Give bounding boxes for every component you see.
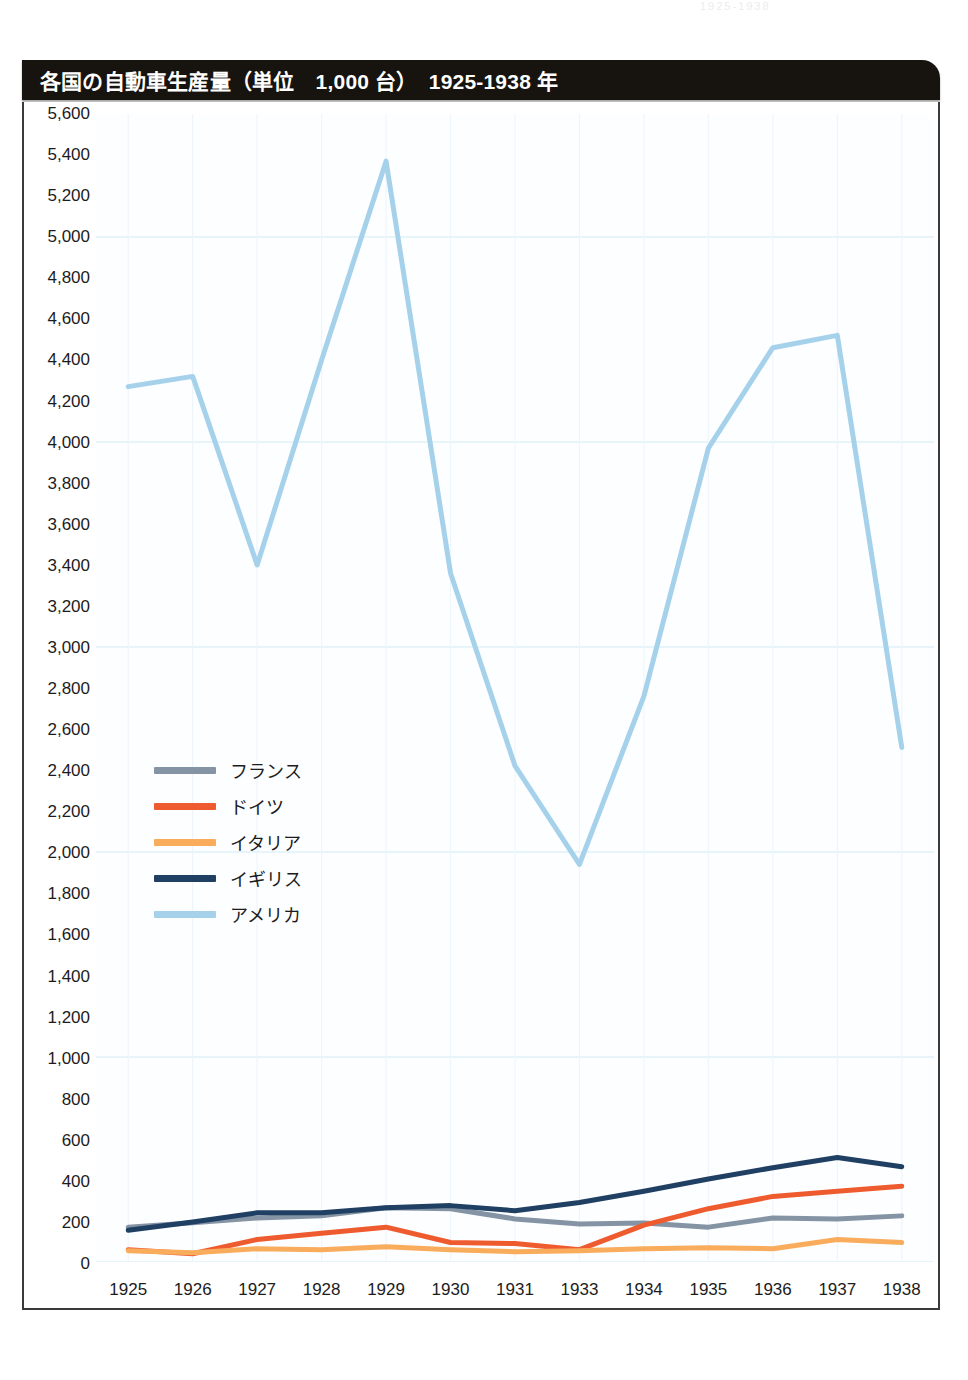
figure: 各国の自動車生産量（単位 1,000 台） 1925-1938 年 5,6005… xyxy=(22,60,940,1310)
x-axis-tick-label: 1936 xyxy=(754,1280,792,1300)
y-axis-ticks: 5,6005,4005,2005,0004,8004,6004,4004,200… xyxy=(24,102,96,1308)
y-axis-tick-label: 1,400 xyxy=(30,967,96,987)
legend-item[interactable]: ドイツ xyxy=(154,788,384,824)
top-ghost-text: 1925-1938 xyxy=(700,0,950,10)
y-axis-tick-label: 2,600 xyxy=(30,720,96,740)
legend-swatch-icon xyxy=(154,767,216,774)
x-axis-tick-label: 1929 xyxy=(367,1280,405,1300)
y-axis-tick-label: 2,400 xyxy=(30,761,96,781)
legend-item-label: フランス xyxy=(230,757,302,783)
legend-item-label: イギリス xyxy=(230,865,302,891)
x-axis-tick-label: 1937 xyxy=(818,1280,856,1300)
y-axis-tick-label: 4,800 xyxy=(30,268,96,288)
legend-item[interactable]: アメリカ xyxy=(154,896,384,932)
axes: 5,6005,4005,2005,0004,8004,6004,4004,200… xyxy=(24,102,938,1308)
series-lines xyxy=(96,114,934,1262)
plot-canvas xyxy=(96,114,934,1262)
x-axis-tick-label: 1930 xyxy=(432,1280,470,1300)
y-axis-tick-label: 4,600 xyxy=(30,309,96,329)
x-axis-tick-label: 1928 xyxy=(303,1280,341,1300)
y-axis-tick-label: 1,800 xyxy=(30,884,96,904)
x-axis-tick-label: 1927 xyxy=(238,1280,276,1300)
y-axis-tick-label: 1,600 xyxy=(30,925,96,945)
plot-frame: 5,6005,4005,2005,0004,8004,6004,4004,200… xyxy=(22,102,940,1310)
y-axis-tick-label: 3,000 xyxy=(30,638,96,658)
x-axis-tick-label: 1935 xyxy=(689,1280,727,1300)
x-axis-tick-label: 1938 xyxy=(883,1280,921,1300)
y-axis-tick-label: 0 xyxy=(30,1254,96,1274)
y-axis-tick-label: 2,800 xyxy=(30,679,96,699)
y-axis-tick-label: 5,400 xyxy=(30,145,96,165)
y-axis-tick-label: 3,600 xyxy=(30,515,96,535)
y-axis-tick-label: 200 xyxy=(30,1213,96,1233)
y-axis-tick-label: 4,200 xyxy=(30,392,96,412)
y-axis-tick-label: 3,800 xyxy=(30,474,96,494)
x-axis-tick-label: 1925 xyxy=(109,1280,147,1300)
legend-swatch-icon xyxy=(154,803,216,810)
chart-title: 各国の自動車生産量（単位 1,000 台） 1925-1938 年 xyxy=(40,65,558,95)
legend-swatch-icon xyxy=(154,911,216,918)
legend-item[interactable]: フランス xyxy=(154,752,384,788)
y-axis-tick-label: 400 xyxy=(30,1172,96,1192)
y-axis-tick-label: 2,000 xyxy=(30,843,96,863)
x-axis-tick-label: 1933 xyxy=(561,1280,599,1300)
legend-item-label: アメリカ xyxy=(230,901,301,927)
y-axis-tick-label: 5,200 xyxy=(30,186,96,206)
y-axis-tick-label: 3,400 xyxy=(30,556,96,576)
x-axis-tick-label: 1926 xyxy=(174,1280,212,1300)
legend-item-label: イタリア xyxy=(230,829,301,855)
y-axis-tick-label: 4,400 xyxy=(30,350,96,370)
chart-page: 1925-1938 各国の自動車生産量（単位 1,000 台） 1925-193… xyxy=(0,0,968,1380)
y-axis-tick-label: 3,200 xyxy=(30,597,96,617)
legend-item-label: ドイツ xyxy=(230,793,284,819)
y-axis-tick-label: 5,600 xyxy=(30,104,96,124)
y-axis-tick-label: 2,200 xyxy=(30,802,96,822)
x-axis-tick-label: 1934 xyxy=(625,1280,663,1300)
y-axis-tick-label: 600 xyxy=(30,1131,96,1151)
x-axis-tick-label: 1931 xyxy=(496,1280,534,1300)
chart-title-bar: 各国の自動車生産量（単位 1,000 台） 1925-1938 年 xyxy=(22,60,940,100)
legend-swatch-icon xyxy=(154,839,216,846)
y-axis-tick-label: 1,200 xyxy=(30,1008,96,1028)
legend-swatch-icon xyxy=(154,875,216,882)
legend-item[interactable]: イタリア xyxy=(154,824,384,860)
y-axis-tick-label: 4,000 xyxy=(30,433,96,453)
x-axis-ticks: 1925192619271928192919301931193319341935… xyxy=(96,1274,934,1300)
chart-legend: フランスドイツイタリアイギリスアメリカ xyxy=(154,752,384,932)
y-axis-tick-label: 800 xyxy=(30,1090,96,1110)
y-axis-tick-label: 1,000 xyxy=(30,1049,96,1069)
y-axis-tick-label: 5,000 xyxy=(30,227,96,247)
legend-item[interactable]: イギリス xyxy=(154,860,384,896)
